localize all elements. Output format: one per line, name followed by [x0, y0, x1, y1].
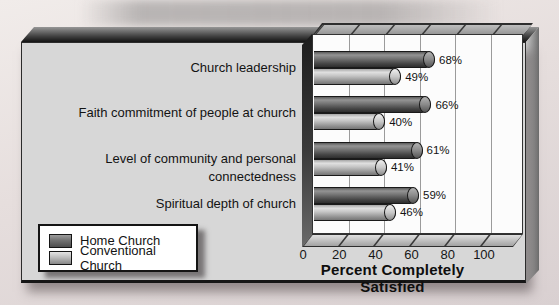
bar-value-label: 68%: [439, 54, 462, 66]
bar-value-label: 41%: [391, 161, 414, 173]
axis-tick-mark: [373, 235, 384, 246]
axis-tick-mark: [338, 235, 349, 246]
x-axis-title: Percent Completely Satisfied: [290, 261, 495, 295]
bar-home: 61%: [314, 142, 423, 159]
slab-right-face: [526, 27, 539, 284]
tick-label: 80: [436, 247, 460, 262]
tick-label: 60: [400, 247, 424, 262]
bar-value-label: 59%: [423, 189, 446, 201]
bar-value-label: 46%: [400, 206, 423, 218]
bar-end-cap: [375, 159, 387, 176]
axis-tick-mark: [409, 235, 420, 246]
scan-smudge: [80, 0, 500, 26]
bar-value-label: 66%: [435, 99, 458, 111]
category-label: Spiritual depth of church: [24, 195, 296, 213]
bar-value-label: 49%: [405, 71, 428, 83]
tick-labels: 020406080100: [302, 247, 523, 262]
bar-end-cap: [407, 187, 419, 204]
bar-home: 59%: [314, 187, 419, 204]
home-church-swatch-icon: [49, 234, 72, 248]
conventional-church-swatch-icon: [49, 251, 72, 265]
bar-value-label: 61%: [427, 144, 450, 156]
bar-conventional: 49%: [314, 68, 401, 85]
tick-label: 40: [363, 247, 387, 262]
bar-end-cap: [423, 51, 435, 68]
plot-area: 68%49%66%40%61%41%59%46%: [312, 34, 523, 234]
axis-shelf-inner: [303, 235, 522, 246]
stage: 68%49%66%40%61%41%59%46% 020406080100 Pe…: [0, 0, 559, 305]
legend-item-conventional-church: Conventional Church: [49, 249, 196, 266]
bar-end-cap: [384, 204, 396, 221]
plot-left-wall: [302, 34, 312, 247]
axis-shelf: [302, 234, 523, 247]
bar-conventional: 41%: [314, 159, 387, 176]
bar-value-label: 40%: [389, 116, 412, 128]
bar-home: 66%: [314, 96, 431, 113]
bar-end-cap: [389, 68, 401, 85]
legend-label-conventional: Conventional Church: [80, 243, 196, 273]
tick-label: 0: [291, 247, 315, 262]
category-label: Level of community and personal connecte…: [24, 150, 296, 168]
axis-tick-mark: [444, 235, 455, 246]
tick-label: 100: [472, 247, 496, 262]
legend: Home Church Conventional Church: [38, 224, 198, 272]
category-label: Faith commitment of people at church: [24, 104, 296, 122]
bar-home: 68%: [314, 51, 435, 68]
axis-tick-mark: [480, 235, 491, 246]
gridline: [491, 35, 492, 233]
tick-label: 20: [327, 247, 351, 262]
bar-end-cap: [419, 96, 431, 113]
bar-end-cap: [411, 142, 423, 159]
category-label: Church leadership: [24, 59, 296, 77]
bar-conventional: 40%: [314, 113, 385, 130]
bar-conventional: 46%: [314, 204, 396, 221]
